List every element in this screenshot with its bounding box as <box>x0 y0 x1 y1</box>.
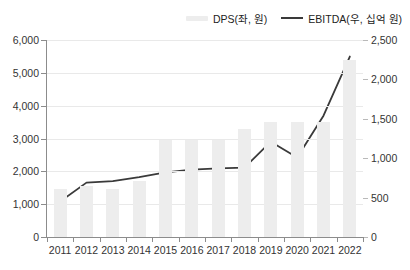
y-axis-left-label: 1,000 <box>0 198 39 210</box>
gridline <box>47 40 363 41</box>
plot-area <box>47 40 363 237</box>
gridline <box>47 204 363 205</box>
x-axis-tick <box>205 237 206 242</box>
y-axis-right-label: 1,500 <box>371 113 409 125</box>
y-axis-left-tick <box>41 171 46 172</box>
bar-2019 <box>264 122 277 237</box>
y-axis-right-label: 2,500 <box>371 34 409 46</box>
y-axis-left-label: 2,000 <box>0 165 39 177</box>
y-axis-right-tick <box>363 119 368 120</box>
bar-2014 <box>133 181 146 237</box>
y-axis-left-tick <box>41 40 46 41</box>
x-axis-tick <box>152 237 153 242</box>
x-axis-tick <box>363 237 364 242</box>
y-axis-right-tick <box>363 40 368 41</box>
y-axis-right-label: 0 <box>371 231 409 243</box>
x-axis-tick <box>126 237 127 242</box>
y-axis-left-tick <box>41 204 46 205</box>
bar-2012 <box>80 186 93 237</box>
y-axis-right-label: 2,000 <box>371 73 409 85</box>
x-axis-tick <box>310 237 311 242</box>
bar-2021 <box>317 122 330 237</box>
gridline <box>47 139 363 140</box>
chart-legend: DPS(좌, 원) EBITDA(우, 십억 원) <box>0 9 410 27</box>
x-axis-tick <box>47 237 48 242</box>
bar-swatch-icon <box>186 16 208 21</box>
x-axis-tick <box>100 237 101 242</box>
bar-2016 <box>185 140 198 237</box>
bar-2022 <box>343 60 356 237</box>
y-axis-right-tick <box>363 198 368 199</box>
x-axis-tick <box>258 237 259 242</box>
line-swatch-icon <box>281 17 303 19</box>
y-axis-left-tick <box>41 73 46 74</box>
y-axis-right-label: 500 <box>371 192 409 204</box>
bar-2011 <box>54 189 67 237</box>
x-axis-tick <box>179 237 180 242</box>
x-axis-tick <box>231 237 232 242</box>
legend-item-ebitda: EBITDA(우, 십억 원) <box>281 11 402 26</box>
bar-2015 <box>159 140 172 237</box>
y-axis-left-label: 0 <box>0 231 39 243</box>
y-axis-right-tick <box>363 158 368 159</box>
x-axis-tick <box>337 237 338 242</box>
y-axis-left-label: 5,000 <box>0 67 39 79</box>
legend-label-ebitda: EBITDA(우, 십억 원) <box>308 11 402 26</box>
y-axis-right-label: 1,000 <box>371 152 409 164</box>
gridline <box>47 73 363 74</box>
gridline <box>47 106 363 107</box>
bar-2020 <box>291 122 304 237</box>
x-axis-label-2022: 2022 <box>330 244 370 256</box>
bar-2017 <box>212 140 225 237</box>
legend-item-dps: DPS(좌, 원) <box>186 11 267 26</box>
bar-2018 <box>238 129 251 237</box>
cut-off-title-strip <box>0 0 410 9</box>
y-axis-right-tick <box>363 79 368 80</box>
y-axis-left-label: 3,000 <box>0 133 39 145</box>
ebitda-line <box>60 57 350 202</box>
gridline <box>47 171 363 172</box>
x-axis-tick <box>73 237 74 242</box>
legend-label-dps: DPS(좌, 원) <box>213 11 267 26</box>
x-axis-tick <box>284 237 285 242</box>
y-axis-left-tick <box>41 106 46 107</box>
y-axis-left-tick <box>41 237 46 238</box>
y-axis-left-tick <box>41 139 46 140</box>
y-axis-left-label: 4,000 <box>0 100 39 112</box>
chart-area: 01,0002,0003,0004,0005,0006,00005001,000… <box>0 27 410 270</box>
bar-2013 <box>106 189 119 237</box>
y-axis-left-label: 6,000 <box>0 34 39 46</box>
